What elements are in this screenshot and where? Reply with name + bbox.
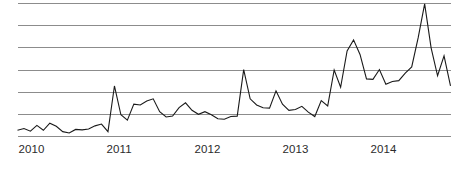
x-tick-label-2010: 2010 bbox=[19, 143, 45, 155]
x-axis: 2010 2011 2012 2013 2014 bbox=[0, 143, 466, 172]
chart-svg bbox=[0, 0, 466, 145]
line-chart: 2010 2011 2012 2013 2014 bbox=[0, 0, 466, 172]
series-line-1 bbox=[18, 4, 451, 133]
x-tick-label-2011: 2011 bbox=[107, 143, 132, 155]
x-tick-label-2014: 2014 bbox=[371, 143, 397, 155]
x-tick-label-2013: 2013 bbox=[283, 143, 309, 155]
x-tick-label-2012: 2012 bbox=[195, 143, 221, 155]
plot-area bbox=[0, 0, 466, 145]
